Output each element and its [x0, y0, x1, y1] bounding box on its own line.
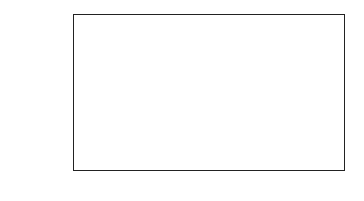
plot-area [73, 14, 345, 171]
y-axis-label [4, 60, 24, 160]
